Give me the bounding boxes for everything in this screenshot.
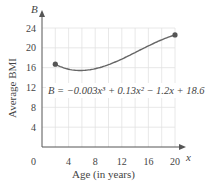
chart: 4812162024 48121620 0 B x B = −0.003x³ +… <box>0 0 219 183</box>
y-tick-label: 8 <box>31 102 36 113</box>
endpoint-dot <box>172 32 177 37</box>
x-tick-label: 8 <box>93 156 98 167</box>
bmi-curve <box>55 35 175 71</box>
y-axis-variable: B <box>31 3 38 15</box>
endpoint-dot <box>53 62 58 67</box>
equation-label: B = −0.003x³ + 0.13x² − 1.2x + 18.6 <box>48 85 205 96</box>
y-tick-label: 12 <box>26 82 36 93</box>
x-tick-label: 4 <box>66 156 71 167</box>
x-tick-label: 16 <box>143 156 153 167</box>
y-tick-label: 24 <box>26 23 36 34</box>
y-tick-label: 20 <box>26 42 36 53</box>
y-axis-arrow-icon <box>39 10 45 17</box>
x-axis-variable: x <box>185 151 191 163</box>
y-axis-title: Average BMI <box>6 58 18 118</box>
x-axis-arrow-icon <box>179 144 186 150</box>
y-tick-label: 16 <box>26 62 36 73</box>
y-tick-label: 4 <box>31 122 36 133</box>
x-tick-label: 20 <box>170 156 180 167</box>
x-axis-title: Age (in years) <box>72 168 135 181</box>
y-tick-labels: 4812162024 <box>26 23 36 133</box>
x-tick-label: 12 <box>117 156 127 167</box>
x-tick-labels: 48121620 <box>66 156 180 167</box>
origin-label: 0 <box>31 156 36 167</box>
